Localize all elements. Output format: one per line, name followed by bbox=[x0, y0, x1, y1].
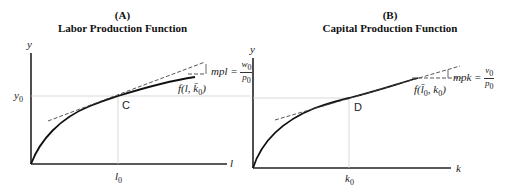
panel-a-x-axis-label: l bbox=[230, 157, 233, 169]
panel-a-curve-label: f(l, k̄0) bbox=[178, 82, 206, 97]
panel-b-graphics bbox=[253, 58, 462, 168]
panel-a-title-text: Labor Production Function bbox=[40, 22, 205, 35]
panel-b-slope-label: mpk = v0p0 bbox=[453, 66, 494, 91]
point-c-label: C bbox=[122, 99, 130, 111]
mpl-fraction: w0p0 bbox=[240, 60, 252, 85]
panel-a-slope-label: mpl = w0p0 bbox=[211, 60, 252, 85]
panel-a-production-curve bbox=[31, 77, 195, 164]
panel-b-title: (B) Capital Production Function bbox=[300, 9, 480, 35]
panel-a-y0-tick: y0 bbox=[14, 89, 23, 104]
mpk-text: mpk bbox=[453, 71, 471, 83]
panel-b-production-curve bbox=[253, 78, 418, 168]
panel-a-l0-tick: l0 bbox=[115, 170, 122, 185]
panel-b-k0-tick: k0 bbox=[345, 172, 354, 187]
panel-b-curve-label: f(l̄0, k0) bbox=[414, 83, 446, 98]
panel-a-y-axis-label: y bbox=[27, 38, 32, 50]
panel-b-title-text: Capital Production Function bbox=[300, 22, 480, 35]
mpl-text: mpl bbox=[211, 65, 228, 77]
mpk-fraction: v0p0 bbox=[484, 66, 494, 91]
point-d-label: D bbox=[354, 101, 362, 113]
panel-b-x-axis-label: k bbox=[456, 162, 461, 174]
panel-a-letter: (A) bbox=[40, 9, 205, 22]
panel-a-title: (A) Labor Production Function bbox=[40, 9, 205, 35]
panel-b-y-axis-label: y bbox=[250, 43, 255, 55]
panel-b-letter: (B) bbox=[300, 9, 480, 22]
